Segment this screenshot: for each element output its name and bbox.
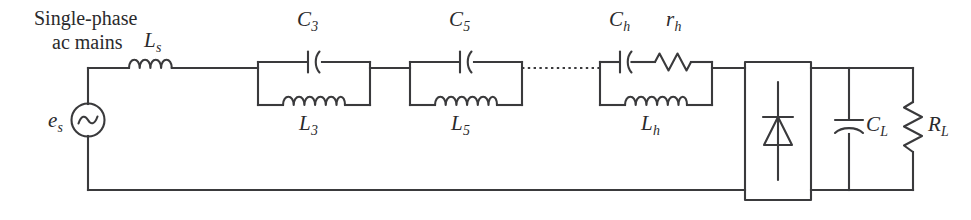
- label-tank1-cap: C3: [297, 9, 318, 34]
- label-load-cap: CL: [866, 114, 888, 139]
- source-caption-line2: ac mains: [52, 30, 123, 54]
- load-capacitor-symbol: [835, 68, 863, 190]
- label-source: es: [48, 110, 63, 135]
- label-tank3-res: rh: [666, 9, 681, 34]
- source-caption-line1: Single-phase: [34, 6, 137, 30]
- load-resistor-symbol: [904, 68, 922, 190]
- tank1-lc: [258, 52, 410, 106]
- circuit-diagram: Single-phase ac mains es Ls C3 L3 C5 L5 …: [0, 0, 971, 220]
- tank2-lc: [410, 52, 522, 106]
- label-tank3-ind: Lh: [641, 113, 660, 138]
- label-tank2-ind: L5: [451, 113, 470, 138]
- label-tank1-ind: L3: [299, 113, 318, 138]
- series-inductor-symbol: [129, 60, 258, 68]
- ac-source-symbol: [72, 104, 105, 137]
- rectifier-block: [745, 62, 811, 200]
- label-series-inductor: Ls: [144, 30, 161, 55]
- label-tank3-cap: Ch: [609, 9, 630, 34]
- label-tank2-cap: C5: [449, 9, 470, 34]
- tank3-lcr: [600, 52, 745, 106]
- label-load-res: RL: [928, 114, 949, 139]
